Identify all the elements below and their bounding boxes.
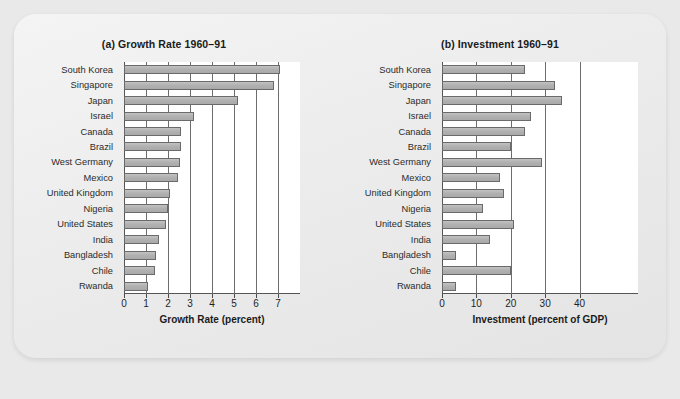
bar-row: [124, 139, 300, 154]
y-axis-label: Mexico: [334, 170, 436, 185]
y-axis-label: Singapore: [334, 77, 436, 92]
bar-row: [442, 232, 638, 247]
bar-row: [124, 77, 300, 92]
x-axis-tick-labels-a: 01234567: [124, 298, 300, 312]
bar: [124, 65, 280, 74]
bar: [124, 81, 274, 90]
y-axis-label: Japan: [334, 93, 436, 108]
y-axis-label: West Germany: [334, 155, 436, 170]
bar-row: [124, 201, 300, 216]
bar: [124, 142, 181, 151]
bar-row: [442, 93, 638, 108]
bar-row: [124, 108, 300, 123]
x-axis-tick-label: 1: [143, 298, 149, 309]
bar-row: [124, 93, 300, 108]
chart-panel-growth-rate: (a) Growth Rate 1960–91 South KoreaSinga…: [14, 38, 314, 338]
y-axis-label: Bangladesh: [334, 247, 436, 262]
x-axis-tick-labels-b: 010203040: [442, 298, 638, 312]
bar-row: [124, 232, 300, 247]
bar: [124, 220, 166, 229]
x-axis-tick-label: 4: [209, 298, 215, 309]
bar-rows-b: [442, 62, 638, 294]
x-axis-title-a: Growth Rate (percent): [124, 314, 300, 325]
bar-row: [442, 170, 638, 185]
y-axis-label: Chile: [14, 263, 118, 278]
bar-row: [124, 170, 300, 185]
bar: [124, 112, 194, 121]
bar: [442, 158, 542, 167]
bar-row: [442, 77, 638, 92]
figure-page: (a) Growth Rate 1960–91 South KoreaSinga…: [14, 14, 666, 358]
y-axis-label: South Korea: [334, 62, 436, 77]
y-axis-label: United States: [14, 217, 118, 232]
bar: [442, 189, 504, 198]
y-axis-label: Israel: [14, 108, 118, 123]
chart-title-b: (b) Investment 1960–91: [334, 38, 666, 50]
bar-row: [442, 139, 638, 154]
bar: [124, 235, 159, 244]
y-axis-label: India: [14, 232, 118, 247]
x-axis-tick-label: 0: [439, 298, 445, 309]
bar: [442, 142, 511, 151]
x-axis-tick-label: 2: [165, 298, 171, 309]
bar-row: [124, 186, 300, 201]
y-axis-label: Brazil: [14, 139, 118, 154]
y-axis-label: Mexico: [14, 170, 118, 185]
y-axis-label: Israel: [334, 108, 436, 123]
y-axis-label: Nigeria: [334, 201, 436, 216]
bar-row: [442, 278, 638, 293]
x-axis-tick-label: 7: [275, 298, 281, 309]
bar-row: [442, 62, 638, 77]
y-axis-label: Chile: [334, 263, 436, 278]
bar: [442, 96, 562, 105]
y-axis-label: Canada: [334, 124, 436, 139]
bar-row: [442, 247, 638, 262]
bar: [442, 282, 456, 291]
bar: [442, 251, 456, 260]
y-axis-label: Rwanda: [334, 278, 436, 293]
y-axis-label: Singapore: [14, 77, 118, 92]
bar: [124, 282, 148, 291]
bar: [124, 96, 238, 105]
x-axis-tick-label: 0: [121, 298, 127, 309]
y-axis-label: Brazil: [334, 139, 436, 154]
y-axis-label: United States: [334, 217, 436, 232]
bar: [124, 173, 178, 182]
bar-row: [124, 247, 300, 262]
y-axis-label: United Kingdom: [334, 186, 436, 201]
x-axis-tick-label: 10: [471, 298, 482, 309]
bar: [124, 251, 156, 260]
y-axis-label: India: [334, 232, 436, 247]
y-axis-label: United Kingdom: [14, 186, 118, 201]
bar-row: [442, 263, 638, 278]
bar: [124, 127, 181, 136]
bar-row: [124, 124, 300, 139]
bar: [442, 65, 525, 74]
y-axis-label: South Korea: [14, 62, 118, 77]
y-axis-label: Japan: [14, 93, 118, 108]
x-axis-tick-label: 20: [505, 298, 516, 309]
bar: [442, 220, 514, 229]
plot-area-b: [442, 62, 638, 294]
bar: [124, 158, 180, 167]
x-axis-tick-label: 30: [540, 298, 551, 309]
bar-row: [442, 124, 638, 139]
y-axis-labels-b: South KoreaSingaporeJapanIsraelCanadaBra…: [334, 62, 436, 294]
bar-row: [124, 278, 300, 293]
bar: [442, 266, 511, 275]
x-axis-tick-label: 5: [231, 298, 237, 309]
bar: [442, 81, 555, 90]
figure-container: (a) Growth Rate 1960–91 South KoreaSinga…: [14, 14, 666, 358]
bar-row: [442, 108, 638, 123]
x-axis-title-b: Investment (percent of GDP): [442, 314, 638, 325]
y-axis-label: Canada: [14, 124, 118, 139]
chart-title-a: (a) Growth Rate 1960–91: [14, 38, 314, 50]
y-axis-label: Rwanda: [14, 278, 118, 293]
bar-row: [442, 217, 638, 232]
bar: [442, 173, 500, 182]
bar: [442, 204, 483, 213]
y-axis-label: Bangladesh: [14, 247, 118, 262]
plot-area-a: [124, 62, 300, 294]
bar: [124, 189, 170, 198]
bar: [442, 235, 490, 244]
